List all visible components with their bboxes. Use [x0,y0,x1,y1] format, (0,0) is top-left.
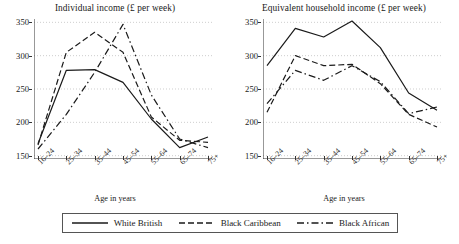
y-tick-mark [258,22,261,23]
legend-item[interactable]: Black African [296,218,389,228]
x-axis-right: 16–2425–3435–4445–5455–6465–7475+ [263,160,441,196]
series-line [38,70,208,148]
plot-svg [263,19,441,159]
y-axis-right: 150200250300350 [229,19,261,159]
y-tick-mark [29,22,32,23]
legend-line-swatch [296,219,334,227]
chart-title: Individual income (£ per week) [0,3,230,13]
legend-label: White British [114,218,163,228]
y-tick-mark [29,156,32,157]
y-tick-label: 200 [16,117,29,127]
legend-item[interactable]: Black Caribbean [178,218,281,228]
y-tick-label: 250 [16,84,29,94]
legend-label: Black African [339,218,389,228]
y-tick-label: 250 [245,84,258,94]
y-tick-mark [258,56,261,57]
y-tick-mark [258,89,261,90]
plot-svg [34,19,212,159]
y-tick-label: 350 [16,17,29,27]
y-axis-left: 150200250300350 [0,19,32,159]
plot-area [34,19,212,159]
chart-title: Equivalent household income (£ per week) [229,3,459,13]
legend-line-swatch [178,219,216,227]
series-line [267,66,437,114]
series-line [38,24,208,149]
x-axis-title: Age in years [229,194,459,203]
x-axis-left: 16–2425–3435–4445–5455–6465–7475+ [34,160,212,196]
chart-panel-individual-income: Individual income (£ per week) 150200250… [0,0,230,205]
y-tick-mark [258,156,261,157]
y-tick-mark [29,56,32,57]
y-tick-label: 300 [16,51,29,61]
y-tick-mark [29,89,32,90]
legend: White BritishBlack CaribbeanBlack Africa… [62,213,398,233]
series-line [38,32,208,145]
y-tick-label: 150 [16,151,29,161]
legend-item[interactable]: White British [71,218,163,228]
y-tick-label: 300 [245,51,258,61]
series-line [267,56,437,127]
chart-panel-equivalent-household-income: Equivalent household income (£ per week)… [229,0,459,205]
y-tick-label: 350 [245,17,258,27]
plot-area [263,19,441,159]
legend-label: Black Caribbean [221,218,281,228]
y-tick-mark [258,122,261,123]
x-axis-title: Age in years [0,194,230,203]
y-tick-label: 150 [245,151,258,161]
figure-root: Individual income (£ per week) 150200250… [0,0,459,244]
legend-line-swatch [71,219,109,227]
y-tick-mark [29,122,32,123]
y-tick-label: 200 [245,117,258,127]
